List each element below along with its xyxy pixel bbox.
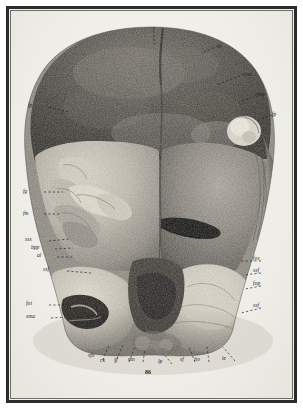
label-al: al: [37, 253, 41, 258]
label-sss: sss: [25, 237, 32, 242]
label-fp-r: fp: [272, 112, 276, 117]
skull-illustration: [11, 11, 292, 398]
anatomical-plate: tlscoefmgfpfpfgfmsssbppalssffoismafosssf…: [0, 0, 303, 409]
label-ito: ito: [194, 357, 200, 362]
label-lp: lp: [158, 359, 162, 364]
label-coe: coe: [244, 72, 252, 77]
label-sfo: sfo: [88, 353, 95, 358]
label-mn: mn: [128, 357, 135, 362]
label-ie: ie: [222, 356, 226, 361]
label-ssf-r2: ssf: [253, 303, 259, 308]
label-sf-r: sf: [180, 357, 184, 362]
label-ssf-l: ssf: [43, 267, 49, 272]
label-fos: fos: [253, 256, 260, 261]
label-ssf-r: ssf: [253, 268, 259, 273]
label-fop: fop: [253, 281, 260, 286]
label-ck: ck: [100, 358, 105, 363]
label-fmg: fmg: [256, 92, 264, 97]
label-bpp: bpp: [31, 245, 39, 250]
label-t: t: [153, 26, 155, 31]
figure-number: 86: [145, 369, 151, 375]
label-fm: fm: [23, 211, 29, 216]
label-foi: foi: [26, 301, 32, 306]
label-sf-l: sf: [114, 357, 118, 362]
label-fg: fg: [23, 189, 27, 194]
label-sma: sma: [26, 314, 35, 319]
label-ls: ls: [218, 44, 222, 49]
label-fp-l: fp: [28, 103, 32, 108]
